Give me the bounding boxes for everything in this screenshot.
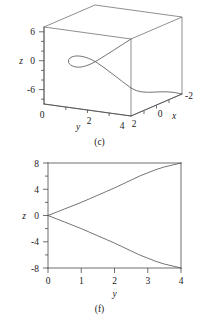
panel-f-y-axis: 0 1 2 3 4 y <box>46 268 184 299</box>
box-wireframe <box>44 5 182 116</box>
panel-f-z-tick-neg4: -4 <box>31 237 39 247</box>
panel-f-svg: 8 4 0 -4 -8 z 0 1 2 3 4 y <box>0 155 199 311</box>
panel-f-2d-plot: 8 4 0 -4 -8 z 0 1 2 3 4 y <box>0 155 199 311</box>
panel-c-x-axis-label: x <box>171 111 177 121</box>
panel-c-z-tick-6: 6 <box>30 27 35 37</box>
panel-f-z-axis: 8 4 0 -4 -8 z <box>21 159 48 274</box>
panel-f-lower-branch <box>48 216 181 269</box>
panel-f-y-tick-4: 4 <box>179 276 184 286</box>
panel-c-y-tick-4: 4 <box>120 121 125 131</box>
panel-c-z-axis-label: z <box>18 56 23 66</box>
panel-c-z-tick-neg6: -6 <box>27 85 35 95</box>
panel-c-y-tick-0: 0 <box>40 110 45 120</box>
panel-c-x-axis: 2 0 -2 x <box>131 91 193 129</box>
panel-f-y-tick-2: 2 <box>112 276 117 286</box>
panel-c-z-tick-0: 0 <box>30 56 35 66</box>
panel-c-x-tick-0: 0 <box>158 109 163 119</box>
panel-c-3d-plot: 6 0 -6 z 0 2 4 y 2 <box>0 0 199 155</box>
panel-c-x-tick-neg2: -2 <box>185 91 193 101</box>
panel-c-space-curve <box>68 39 182 94</box>
panel-f-z-tick-0: 0 <box>34 211 39 221</box>
panel-f-z-tick-8: 8 <box>34 159 39 169</box>
panel-c-y-axis: 0 2 4 y <box>40 104 131 132</box>
panel-c-y-tick-2: 2 <box>87 116 92 126</box>
panel-f-upper-branch <box>48 163 181 216</box>
panel-c-z-axis: 6 0 -6 z <box>18 27 44 104</box>
panel-f-caption: (f) <box>95 304 105 314</box>
panel-f-z-tick-4: 4 <box>34 185 39 195</box>
panel-f-y-tick-3: 3 <box>145 276 150 286</box>
panel-f-y-tick-1: 1 <box>79 276 84 286</box>
panel-c-x-tick-2: 2 <box>132 119 137 129</box>
panel-f-frame <box>48 163 181 268</box>
panel-f-curves <box>48 163 181 268</box>
panel-c-caption: (c) <box>94 137 105 147</box>
panel-f-z-axis-label: z <box>21 211 26 221</box>
panel-f-y-tick-0: 0 <box>46 276 51 286</box>
panel-f-z-tick-neg8: -8 <box>31 264 39 274</box>
